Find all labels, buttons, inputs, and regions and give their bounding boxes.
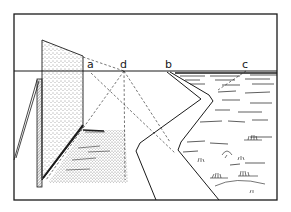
road-left-edge (136, 72, 201, 200)
support-pole (14, 80, 39, 160)
grass-tufts (198, 135, 265, 193)
label-a: a (87, 59, 94, 70)
road-right-edge (170, 72, 219, 200)
label-b: b (165, 59, 172, 70)
perspective-diagram (0, 0, 291, 212)
panel-shadow-top (83, 130, 104, 131)
panel-edge-strip (37, 79, 42, 187)
label-d: d (120, 59, 127, 70)
road (136, 72, 219, 200)
label-c: c (242, 59, 248, 70)
